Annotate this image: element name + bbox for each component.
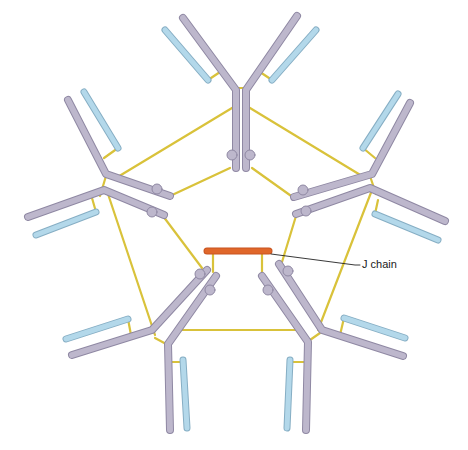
heavy-chains [28, 16, 445, 430]
domain-bumps [147, 150, 311, 295]
igm-pentamer-diagram [0, 0, 468, 450]
j-chain-label: J chain [362, 258, 397, 270]
